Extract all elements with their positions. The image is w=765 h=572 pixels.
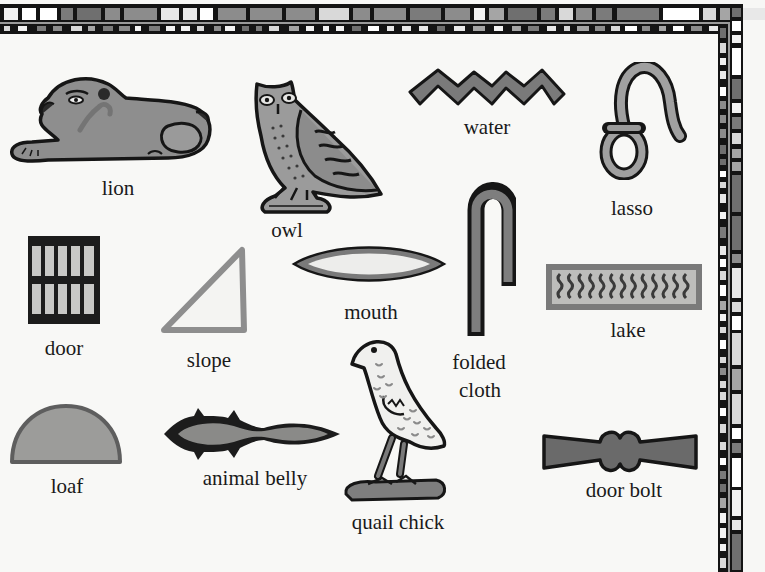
glyph-label-door: door <box>36 336 92 360</box>
border-block <box>732 79 741 99</box>
border-block <box>564 26 570 31</box>
lake-icon <box>546 264 704 310</box>
border-block <box>576 8 592 20</box>
border-block <box>18 26 27 31</box>
border-block <box>323 26 329 31</box>
border-block <box>732 216 741 250</box>
border-block <box>410 8 441 20</box>
border-block <box>625 26 637 31</box>
border-block <box>289 26 299 31</box>
border-block <box>183 8 197 20</box>
border-block <box>659 26 666 31</box>
glyph-label-water: water <box>455 115 519 139</box>
border-block <box>124 8 157 20</box>
border-block <box>720 246 726 255</box>
border-block <box>528 26 539 31</box>
border-block <box>720 212 726 219</box>
border-block <box>336 26 344 31</box>
owl-icon <box>245 80 385 220</box>
border-block <box>286 8 315 20</box>
border-block <box>474 8 485 20</box>
border-block <box>720 458 726 465</box>
border-block <box>663 8 699 20</box>
border-block <box>732 35 741 43</box>
border-block <box>53 26 62 31</box>
lion-icon <box>8 70 213 170</box>
border-block <box>720 471 726 479</box>
border-block <box>319 8 349 20</box>
border-block <box>473 26 485 31</box>
border-block <box>732 254 741 263</box>
border-block <box>489 8 504 20</box>
border-block <box>703 8 716 20</box>
border-block <box>4 26 10 31</box>
border-block <box>119 26 130 31</box>
border-block <box>732 316 741 330</box>
border-block <box>720 381 726 388</box>
loaf-icon <box>8 402 124 466</box>
border-block <box>181 26 190 31</box>
border-block <box>732 117 741 129</box>
border-block <box>720 498 726 508</box>
border-block <box>720 194 726 203</box>
border-block <box>720 513 726 523</box>
border-block <box>673 26 684 31</box>
border-block <box>720 101 726 109</box>
border-block <box>732 48 741 75</box>
border-block <box>508 8 537 20</box>
glyph-label-door-bolt: door bolt <box>576 478 672 502</box>
border-block <box>720 28 726 38</box>
border-block <box>720 544 726 551</box>
border-block <box>732 8 741 17</box>
lasso-rope-icon <box>598 62 688 180</box>
glyph-label-slope: slope <box>178 348 240 372</box>
border-block <box>61 8 73 20</box>
border-block <box>596 8 612 20</box>
border-block <box>218 8 246 20</box>
border-block <box>71 26 82 31</box>
water-zigzag-icon <box>406 64 566 112</box>
border-block <box>732 103 741 113</box>
border-block <box>732 428 741 439</box>
animal-belly-icon <box>160 404 344 462</box>
border-block <box>720 357 726 363</box>
border-block <box>642 26 650 31</box>
border-block <box>720 227 726 238</box>
folded-cloth-icon <box>462 176 516 340</box>
border-block <box>595 26 605 31</box>
border-block <box>720 558 726 568</box>
mouth-icon <box>290 236 448 292</box>
border-block <box>387 26 394 31</box>
decorative-border-top-inner <box>0 24 725 34</box>
border-block <box>720 182 726 188</box>
border-block <box>135 26 141 31</box>
border-block <box>512 26 521 31</box>
border-block <box>720 58 726 65</box>
border-block <box>720 408 726 416</box>
border-block <box>402 26 411 31</box>
border-block <box>720 145 726 154</box>
glyph-label-quail-chick: quail chick <box>346 510 450 534</box>
border-block <box>720 71 726 79</box>
border-block <box>4 8 18 20</box>
border-block <box>732 21 741 31</box>
border-block <box>720 285 726 296</box>
border-block <box>541 8 555 20</box>
glyph-label-lake: lake <box>603 318 653 342</box>
glyph-label-loaf: loaf <box>42 474 92 498</box>
border-block <box>732 520 741 530</box>
decorative-border-right-inner <box>718 24 728 572</box>
decorative-border-right <box>730 4 743 572</box>
border-block <box>732 490 741 516</box>
border-block <box>691 26 702 31</box>
border-block <box>250 8 282 20</box>
border-block <box>103 26 113 31</box>
border-block <box>197 26 204 31</box>
slope-triangle-icon <box>158 244 252 338</box>
glyph-label-mouth: mouth <box>338 300 404 324</box>
border-block <box>720 528 726 538</box>
border-block <box>88 26 95 31</box>
border-block <box>547 26 556 31</box>
door-icon <box>26 234 102 326</box>
border-block <box>306 26 314 31</box>
